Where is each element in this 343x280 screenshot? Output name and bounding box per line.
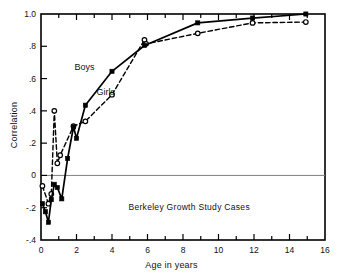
svg-text:12: 12	[249, 245, 259, 255]
x-axis-title: Age in years	[0, 260, 343, 270]
correlation-line-chart: 0246810121416 1.0.8.6.4.20-.2-.4 BoysGir…	[0, 0, 343, 280]
svg-text:.8: .8	[29, 41, 36, 51]
svg-text:.6: .6	[29, 74, 36, 84]
svg-text:1.0: 1.0	[24, 9, 36, 19]
svg-text:0: 0	[39, 245, 44, 255]
svg-text:-.4: -.4	[26, 235, 36, 245]
chart-figure: 0246810121416 1.0.8.6.4.20-.2-.4 BoysGir…	[0, 0, 343, 280]
svg-text:10: 10	[214, 245, 224, 255]
svg-text:6: 6	[145, 245, 150, 255]
svg-text:4: 4	[110, 245, 115, 255]
y-axis-title: Correlation	[9, 85, 19, 165]
series-girls	[40, 20, 308, 206]
x-axis-tick-labels: 0246810121416	[39, 245, 330, 255]
annotation-girls: Girls	[97, 87, 116, 97]
svg-text:-.2: -.2	[26, 203, 36, 213]
svg-text:16: 16	[320, 245, 330, 255]
svg-text:.4: .4	[29, 106, 36, 116]
series-boys	[40, 12, 308, 224]
annotation-berkeley-growth-study-cases: Berkeley Growth Study Cases	[128, 202, 249, 212]
svg-text:0: 0	[31, 170, 36, 180]
svg-text:.2: .2	[29, 138, 36, 148]
svg-text:14: 14	[285, 245, 295, 255]
y-axis-tick-labels: 1.0.8.6.4.20-.2-.4	[24, 9, 36, 245]
svg-text:2: 2	[74, 245, 79, 255]
annotation-boys: Boys	[74, 62, 95, 72]
svg-text:8: 8	[181, 245, 186, 255]
